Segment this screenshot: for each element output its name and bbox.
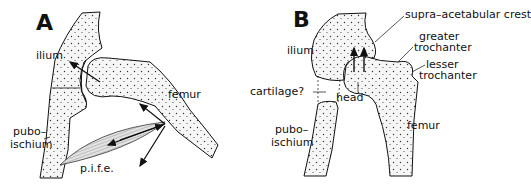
- panel-b-label-cartilage: cartilage?: [250, 86, 304, 98]
- panel-b-label-head: head: [336, 92, 363, 104]
- panel-b: [304, 13, 425, 176]
- panel-b-label-puboischium-1: pubo–: [275, 124, 308, 136]
- panel-b-letter: B: [293, 9, 310, 31]
- panel-b-femur: [344, 56, 418, 176]
- panel-a-label-femur: femur: [168, 89, 201, 101]
- panel-b-leader-greater: [398, 47, 413, 62]
- panel-b-label-femur: femur: [407, 120, 440, 132]
- panel-b-label-supra-acetabular-crest: supra–acetabular crest: [405, 9, 531, 21]
- panel-b-label-greater-2: trochanter: [414, 42, 472, 54]
- panel-b-label-puboischium-2: ischium: [271, 137, 314, 149]
- panel-a-label-ilium: ilium: [36, 50, 63, 62]
- panel-a-label-pife: p.i.f.e.: [80, 163, 114, 175]
- panel-a-letter: A: [36, 12, 53, 34]
- panel-b-leader-supra: [375, 16, 404, 42]
- panel-a-label-puboischium-1: pubo–: [13, 126, 46, 138]
- panel-b-label-lesser-2: trochanter: [419, 70, 477, 82]
- panel-a-label-puboischium-2: ischium: [10, 139, 53, 151]
- panel-b-label-ilium: ilium: [287, 45, 314, 57]
